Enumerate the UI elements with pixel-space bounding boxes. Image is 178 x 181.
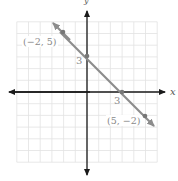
point-label-neg2-5: (−2, 5)	[23, 36, 57, 47]
x-axis-label: x	[170, 86, 176, 97]
y-axis-label: y	[83, 0, 89, 5]
y-intercept-label: 3	[76, 55, 82, 66]
point-0-3	[85, 54, 90, 59]
x-intercept-label: 3	[114, 95, 120, 106]
graph-line-lower	[60, 32, 154, 126]
point-neg2-5	[61, 30, 66, 35]
point-5-neg2	[143, 114, 148, 119]
coordinate-plane: x y (−2, 5) 3 3 (5, −2)	[0, 0, 178, 181]
point-label-5-neg2: (5, −2)	[107, 115, 141, 126]
point-3-0	[120, 90, 125, 95]
